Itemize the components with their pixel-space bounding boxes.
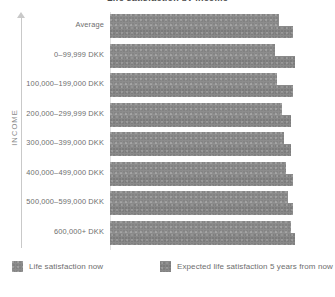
bar-life-satisfaction-now bbox=[110, 14, 279, 26]
category-label: 300,000–399,000 DKK bbox=[0, 138, 104, 147]
legend-label: Life satisfaction now bbox=[29, 262, 103, 271]
legend-swatch-icon bbox=[12, 261, 23, 272]
bar-expected-life-satisfaction bbox=[110, 85, 293, 97]
chart-legend: Life satisfaction now Expected life sati… bbox=[0, 258, 335, 280]
legend-item-life-satisfaction-now: Life satisfaction now bbox=[12, 258, 103, 274]
bar-group: 600,000+ DKK bbox=[30, 221, 335, 247]
bar-group: 300,000–399,000 DKK bbox=[30, 132, 335, 158]
bar-group: 400,000–499,000 DKK bbox=[30, 162, 335, 188]
bar-life-satisfaction-now bbox=[110, 191, 288, 203]
bar-life-satisfaction-now bbox=[110, 73, 277, 85]
bar-expected-life-satisfaction bbox=[110, 26, 293, 38]
category-label: 400,000–499,000 DKK bbox=[0, 168, 104, 177]
category-label: 0–99,999 DKK bbox=[0, 50, 104, 59]
bar-expected-life-satisfaction bbox=[110, 56, 295, 68]
legend-label: Expected life satisfaction 5 years from … bbox=[177, 262, 333, 271]
bar-group: 0–99,999 DKK bbox=[30, 44, 335, 70]
plot-area: Average0–99,999 DKK100,000–199,000 DKK20… bbox=[30, 12, 335, 250]
category-label: 200,000–299,999 DKK bbox=[0, 109, 104, 118]
bar-life-satisfaction-now bbox=[110, 132, 284, 144]
bar-expected-life-satisfaction bbox=[110, 174, 293, 186]
bar-group: 500,000–599,000 DKK bbox=[30, 191, 335, 217]
category-label: 100,000–199,000 DKK bbox=[0, 79, 104, 88]
life-satisfaction-bar-chart: Life satisfaction by income INCOME Avera… bbox=[0, 0, 335, 297]
bar-life-satisfaction-now bbox=[110, 103, 282, 115]
bar-life-satisfaction-now bbox=[110, 44, 275, 56]
bar-group: 200,000–299,999 DKK bbox=[30, 103, 335, 129]
category-label: Average bbox=[0, 20, 104, 29]
bar-expected-life-satisfaction bbox=[110, 115, 291, 127]
legend-item-expected-life-satisfaction: Expected life satisfaction 5 years from … bbox=[160, 258, 333, 274]
bar-life-satisfaction-now bbox=[110, 221, 291, 233]
category-label: 600,000+ DKK bbox=[0, 227, 104, 236]
bar-life-satisfaction-now bbox=[110, 162, 286, 174]
category-label: 500,000–599,000 DKK bbox=[0, 197, 104, 206]
bar-expected-life-satisfaction bbox=[110, 203, 293, 215]
legend-swatch-icon bbox=[160, 261, 171, 272]
y-axis-title: INCOME bbox=[10, 93, 19, 163]
bar-expected-life-satisfaction bbox=[110, 233, 295, 245]
chart-title: Life satisfaction by income bbox=[0, 0, 335, 1]
bar-expected-life-satisfaction bbox=[110, 144, 291, 156]
bar-group: 100,000–199,000 DKK bbox=[30, 73, 335, 99]
bar-group: Average bbox=[30, 14, 335, 40]
